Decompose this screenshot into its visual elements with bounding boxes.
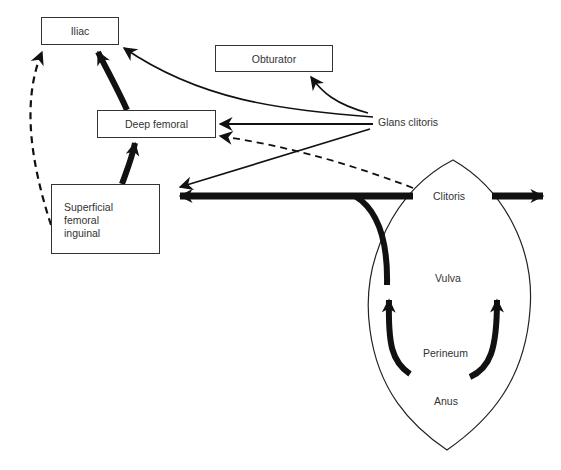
node-superficial-femoral-inguinal: Superficial femoral inguinal — [51, 184, 160, 254]
node-iliac: Iliac — [41, 17, 119, 45]
label-anus: Anus — [434, 395, 458, 407]
node-superficial-line-2: femoral — [64, 214, 159, 227]
node-deep-femoral-label: Deep femoral — [125, 118, 188, 130]
node-superficial-line-1: Superficial — [64, 201, 159, 214]
label-glans-clitoris: Glans clitoris — [378, 116, 438, 128]
edge-clitoris-to-deep-femoral-dashed — [220, 136, 413, 188]
node-obturator-label: Obturator — [252, 53, 296, 65]
edge-superficial-to-deep-femoral — [122, 143, 135, 184]
node-iliac-label: Iliac — [71, 25, 90, 37]
node-obturator: Obturator — [215, 45, 333, 72]
node-superficial-line-3: inguinal — [64, 227, 159, 240]
edge-deep-femoral-to-iliac — [98, 52, 127, 110]
edge-glans-to-obturator — [311, 77, 368, 113]
node-deep-femoral: Deep femoral — [97, 110, 216, 138]
label-vulva: Vulva — [435, 272, 461, 284]
label-clitoris: Clitoris — [433, 190, 465, 202]
edge-superficial-to-iliac-dashed — [30, 52, 51, 225]
label-perineum: Perineum — [423, 347, 468, 359]
